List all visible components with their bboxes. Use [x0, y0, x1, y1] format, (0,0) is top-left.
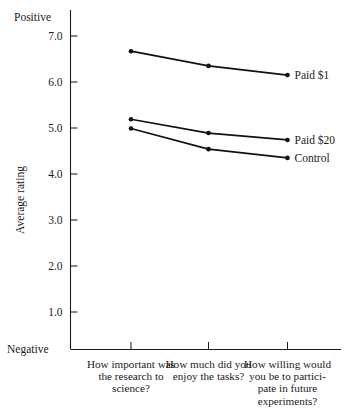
line-chart: Paid $1Paid $20Control 7.06.05.04.03.02.… — [0, 0, 355, 413]
series-label-2: Paid $20 — [295, 134, 336, 146]
data-point — [285, 138, 290, 143]
y-axis-ticks — [71, 36, 78, 312]
data-point — [129, 117, 134, 122]
x-category-label-3: you be to partici- — [249, 370, 326, 382]
y-axis-top-label: Positive — [14, 11, 51, 23]
x-category-label-1: science? — [112, 382, 150, 394]
data-point — [129, 126, 134, 131]
x-axis-ticks — [131, 342, 288, 350]
x-category-label-3: How willing would — [244, 358, 331, 370]
x-axis-category-labels: How important wasthe research toscience?… — [87, 358, 332, 407]
y-axis-bottom-label: Negative — [7, 343, 49, 356]
x-category-label-1: How important was — [87, 358, 175, 370]
y-tick-label: 2.0 — [48, 260, 63, 272]
series-line-1 — [131, 51, 288, 75]
data-point — [129, 49, 134, 54]
series-label-1: Paid $1 — [295, 69, 330, 81]
data-point — [206, 64, 211, 69]
y-tick-label: 4.0 — [48, 168, 63, 180]
y-tick-label: 5.0 — [48, 122, 63, 134]
chart-series-group — [129, 49, 290, 160]
y-tick-label: 6.0 — [48, 76, 63, 88]
x-category-label-3: experiments? — [258, 395, 318, 407]
series-line-2 — [131, 119, 288, 140]
y-axis-tick-labels: 7.06.05.04.03.02.01.0 — [48, 30, 63, 318]
chart-container: Paid $1Paid $20Control 7.06.05.04.03.02.… — [0, 0, 355, 413]
y-axis-title: Average rating — [14, 166, 27, 234]
series-label-3: Control — [295, 152, 330, 164]
y-tick-label: 3.0 — [48, 214, 63, 226]
y-tick-label: 7.0 — [48, 30, 63, 42]
series-endpoint-labels: Paid $1Paid $20Control — [295, 69, 336, 164]
x-category-label-1: the research to — [98, 370, 164, 382]
x-category-label-2: How much did you — [165, 358, 251, 370]
data-point — [206, 147, 211, 152]
x-category-label-3: pate in future — [258, 382, 318, 394]
x-category-label-2: enjoy the tasks? — [173, 370, 244, 382]
data-point — [285, 156, 290, 161]
data-point — [285, 73, 290, 78]
chart-axes — [71, 10, 342, 350]
data-point — [206, 131, 211, 136]
y-tick-label: 1.0 — [48, 306, 63, 318]
